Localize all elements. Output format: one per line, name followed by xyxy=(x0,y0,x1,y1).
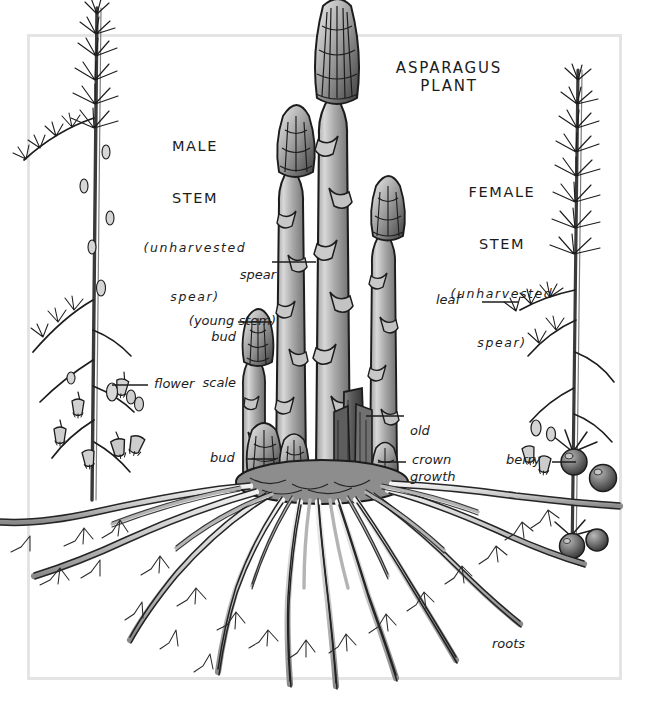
label-male-stem-line1: MALE xyxy=(130,138,260,155)
page-title: ASPARAGUS PLANT xyxy=(374,60,524,95)
label-crown: crown xyxy=(412,452,451,467)
label-leaf: leaf xyxy=(436,292,460,307)
spear-right xyxy=(368,176,405,469)
label-roots: roots xyxy=(492,636,525,651)
label-bud: bud xyxy=(210,450,235,465)
label-berry: berry xyxy=(506,452,541,467)
label-bud-scale-line1: bud xyxy=(186,329,236,344)
spear-left xyxy=(275,105,315,467)
label-old-growth-line2: growth xyxy=(410,469,456,484)
illustration-canvas: ASPARAGUS PLANT MALE STEM (unharvested s… xyxy=(0,0,645,720)
label-spear-line1: spear xyxy=(172,267,276,282)
label-flower: flower xyxy=(154,376,194,391)
label-female-stem: FEMALE STEM (unharvested spear) xyxy=(432,150,572,368)
label-old-growth: old growth xyxy=(410,392,456,499)
male-stem-plant xyxy=(13,0,145,500)
label-female-stem-line1: FEMALE xyxy=(432,184,572,201)
label-male-stem-line2: STEM xyxy=(130,190,260,207)
label-old-growth-line1: old xyxy=(410,423,456,438)
label-female-stem-line4: spear) xyxy=(432,336,572,351)
label-female-stem-line2: STEM xyxy=(432,236,572,253)
